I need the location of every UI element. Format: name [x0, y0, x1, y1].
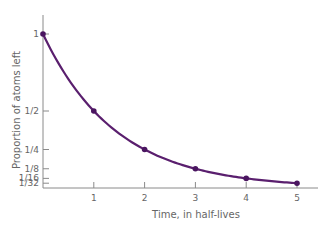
x-tick-label: 3: [193, 193, 199, 203]
decay-line: [43, 34, 297, 183]
y-axis-title: Proportion of atoms left: [11, 51, 22, 169]
y-tick-label: 1: [33, 29, 39, 39]
y-tick-label: 1/32: [19, 178, 39, 188]
data-point: [142, 147, 148, 153]
x-tick-label: 5: [294, 193, 300, 203]
y-tick-label: 1/8: [25, 164, 40, 174]
x-axis-title: Time, in half-lives: [151, 209, 240, 220]
data-point: [193, 166, 199, 172]
data-point: [40, 31, 46, 37]
decay-chart: 11/21/41/81/161/3212345 Time, in half-li…: [0, 0, 327, 232]
x-tick-label: 4: [243, 193, 249, 203]
axes: 11/21/41/81/161/3212345: [19, 15, 318, 203]
y-tick-label: 1/2: [25, 106, 39, 116]
y-tick-label: 1/4: [25, 145, 40, 155]
data-point: [294, 180, 300, 186]
data-point: [243, 176, 249, 182]
decay-curve: [40, 31, 300, 186]
x-tick-label: 2: [142, 193, 148, 203]
data-point: [91, 108, 97, 114]
x-tick-label: 1: [91, 193, 97, 203]
